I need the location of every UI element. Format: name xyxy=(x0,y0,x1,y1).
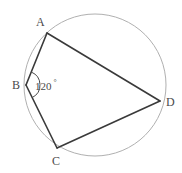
chord-cd xyxy=(57,101,160,148)
angle-measure-label-b: 120° xyxy=(35,79,57,92)
degree-symbol-icon: ° xyxy=(54,78,57,87)
vertex-label-a: A xyxy=(36,16,45,28)
vertex-label-d: D xyxy=(166,96,175,108)
vertex-label-c: C xyxy=(52,155,60,167)
angle-value-b: 120 xyxy=(35,80,52,92)
chord-bc xyxy=(26,85,57,148)
geometry-figure: A B C D 120° xyxy=(0,0,182,173)
vertex-label-b: B xyxy=(12,79,20,91)
geometry-canvas xyxy=(0,0,182,173)
chord-ad xyxy=(47,33,160,101)
